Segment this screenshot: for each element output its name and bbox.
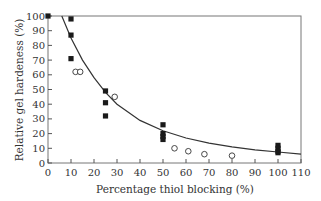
y-tick-label: 0 xyxy=(39,158,45,169)
data-points xyxy=(45,13,280,158)
open-circle-marker xyxy=(172,146,178,152)
x-tick-label: 40 xyxy=(134,167,147,178)
y-axis-title: Relative gel hardeness (%) xyxy=(13,19,25,162)
x-tick-label: 20 xyxy=(88,167,101,178)
filled-square-marker xyxy=(45,13,50,18)
filled-square-marker xyxy=(68,16,73,21)
open-circle-marker xyxy=(77,69,83,75)
open-circle-marker xyxy=(202,151,208,157)
y-tick-label: 90 xyxy=(32,25,45,36)
y-tick-label: 20 xyxy=(32,128,45,139)
filled-square-marker xyxy=(160,122,165,127)
chart: 0102030405060708090100110 01020304050607… xyxy=(0,0,321,201)
x-axis-title: Percentage thiol blocking (%) xyxy=(96,183,254,195)
y-tick-label: 30 xyxy=(32,113,45,124)
filled-square-marker xyxy=(68,33,73,38)
filled-square-marker xyxy=(103,113,108,118)
fit-curve-path xyxy=(62,16,301,154)
filled-square-marker xyxy=(103,100,108,105)
x-tick-label: 70 xyxy=(203,167,216,178)
plot-frame xyxy=(48,16,301,163)
x-tick-label: 50 xyxy=(157,167,170,178)
y-tick-label: 10 xyxy=(32,143,45,154)
x-tick-label: 110 xyxy=(291,167,310,178)
open-circle-marker xyxy=(186,148,192,154)
fitted-curve xyxy=(62,16,301,154)
filled-square-marker xyxy=(275,150,280,155)
y-tick-label: 70 xyxy=(32,55,45,66)
y-tick-label: 100 xyxy=(26,11,45,22)
filled-square-marker xyxy=(68,56,73,61)
y-tick-label: 80 xyxy=(32,40,45,51)
open-circle-marker xyxy=(229,153,235,159)
x-axis: 0102030405060708090100110 xyxy=(45,159,311,178)
x-tick-label: 100 xyxy=(268,167,287,178)
x-tick-label: 10 xyxy=(65,167,78,178)
y-tick-label: 60 xyxy=(32,69,45,80)
y-tick-label: 40 xyxy=(32,99,45,110)
x-tick-label: 60 xyxy=(180,167,193,178)
x-tick-label: 0 xyxy=(45,167,51,178)
y-tick-label: 50 xyxy=(32,84,45,95)
open-circle-marker xyxy=(112,94,118,100)
x-tick-label: 90 xyxy=(249,167,262,178)
x-tick-label: 30 xyxy=(111,167,124,178)
plot-border xyxy=(48,16,301,163)
x-tick-label: 80 xyxy=(226,167,239,178)
filled-square-marker xyxy=(103,88,108,93)
filled-square-marker xyxy=(160,137,165,142)
